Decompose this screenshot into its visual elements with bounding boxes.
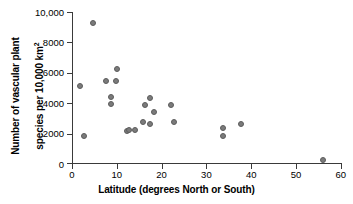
x-tick-label-0: 0 [52, 170, 92, 180]
data-point [103, 78, 109, 84]
x-tick-label-50: 50 [276, 170, 316, 180]
scatter-chart: Number of vascular plant species per 10,… [0, 0, 353, 204]
x-tick-label-10: 10 [97, 170, 137, 180]
data-point [77, 83, 83, 89]
y-tick-label-8000: 8000 [4, 38, 64, 48]
y-tick-label-0: 0 [4, 160, 64, 170]
data-point [168, 102, 174, 108]
x-axis-title: Latitude (degrees North or South) [0, 184, 353, 195]
data-point [151, 109, 157, 115]
x-tick-label-60: 60 [321, 170, 353, 180]
y-tick-label-10000: 10,000 [4, 8, 64, 18]
data-point [220, 125, 226, 131]
x-tick-label-30: 30 [186, 170, 226, 180]
data-point [142, 102, 148, 108]
y-axis-line [72, 12, 73, 164]
data-point [220, 133, 226, 139]
data-point [114, 66, 120, 72]
data-point [124, 128, 130, 134]
data-point [171, 119, 177, 125]
data-point [132, 127, 138, 133]
y-tick-label-6000: 6000 [4, 68, 64, 78]
data-point [238, 121, 244, 127]
y-tick-label-2000: 2000 [4, 129, 64, 139]
data-point [81, 133, 87, 139]
y-tick-label-4000: 4000 [4, 99, 64, 109]
data-point [90, 20, 96, 26]
data-point [108, 94, 114, 100]
x-tick-label-20: 20 [142, 170, 182, 180]
data-point [140, 119, 146, 125]
data-point [126, 127, 132, 133]
data-point [113, 78, 119, 84]
data-point [108, 101, 114, 107]
data-point [147, 121, 153, 127]
x-tick-label-40: 40 [231, 170, 271, 180]
data-point [147, 95, 153, 101]
